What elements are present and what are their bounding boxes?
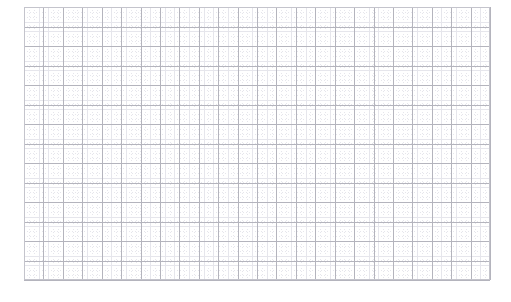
figure-canvas xyxy=(0,0,511,302)
gridline-vertical xyxy=(63,7,64,280)
gridline-vertical xyxy=(471,7,472,280)
gridline-vertical xyxy=(82,7,83,280)
gridline-vertical xyxy=(451,7,452,280)
plot-area[interactable] xyxy=(24,7,490,280)
gridline-horizontal xyxy=(24,183,490,184)
gridline-vertical xyxy=(393,7,394,280)
minor-gridlines xyxy=(24,7,490,280)
gridline-vertical xyxy=(43,7,44,280)
gridline-horizontal xyxy=(24,241,490,242)
gridline-vertical xyxy=(354,7,355,280)
gridline-vertical xyxy=(24,7,25,280)
gridline-horizontal xyxy=(24,66,490,67)
gridline-vertical xyxy=(121,7,122,280)
gridline-vertical xyxy=(335,7,336,280)
gridline-vertical xyxy=(257,7,258,280)
major-gridlines xyxy=(24,7,490,280)
gridline-horizontal xyxy=(24,163,490,164)
gridline-vertical xyxy=(102,7,103,280)
gridline-vertical xyxy=(179,7,180,280)
gridline-vertical xyxy=(296,7,297,280)
gridline-horizontal xyxy=(24,280,490,281)
gridline-horizontal xyxy=(24,27,490,28)
gridline-horizontal xyxy=(24,222,490,223)
gridline-horizontal xyxy=(24,46,490,47)
gridline-vertical xyxy=(432,7,433,280)
gridline-vertical xyxy=(374,7,375,280)
plot-border xyxy=(24,7,490,280)
gridline-horizontal xyxy=(24,7,490,8)
gridline-horizontal xyxy=(24,144,490,145)
gridline-horizontal xyxy=(24,124,490,125)
gridline-vertical xyxy=(412,7,413,280)
gridline-vertical xyxy=(141,7,142,280)
gridline-vertical xyxy=(276,7,277,280)
gridline-horizontal xyxy=(24,202,490,203)
gridline-vertical xyxy=(238,7,239,280)
gridline-vertical xyxy=(218,7,219,280)
gridline-vertical xyxy=(199,7,200,280)
gridline-vertical xyxy=(160,7,161,280)
gridline-vertical xyxy=(490,7,491,280)
gridline-horizontal xyxy=(24,105,490,106)
gridline-vertical xyxy=(315,7,316,280)
gridline-horizontal xyxy=(24,85,490,86)
gridline-horizontal xyxy=(24,261,490,262)
